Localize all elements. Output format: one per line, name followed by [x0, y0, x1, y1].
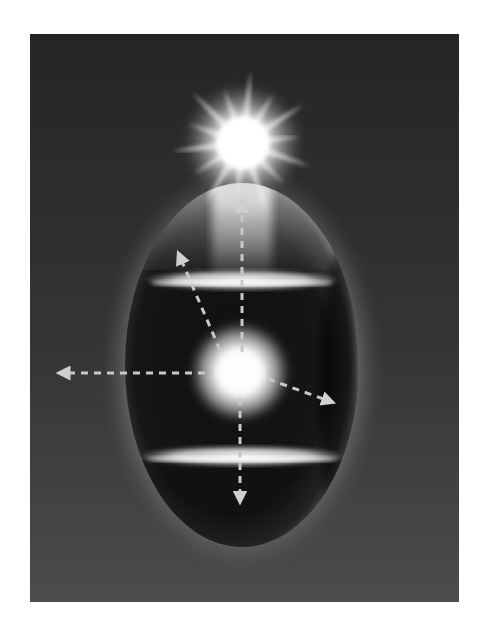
figure-canvas: [0, 0, 487, 633]
orb-core: [218, 350, 263, 395]
star-core: [217, 117, 269, 169]
ellipsoid-illustration: [0, 0, 487, 633]
lower-band-highlight: [146, 456, 338, 462]
